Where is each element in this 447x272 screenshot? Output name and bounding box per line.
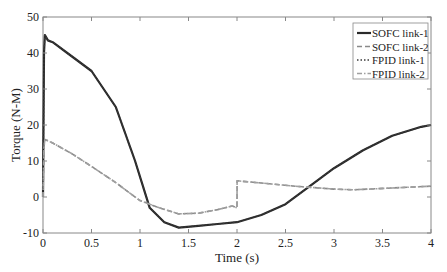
y-tick-label: 20: [27, 118, 39, 132]
x-tick-label: 3.5: [375, 236, 390, 250]
legend-label: FPID link-2: [372, 68, 425, 80]
legend-label: SOFC link-1: [372, 27, 429, 39]
x-tick-label: 0.5: [84, 236, 99, 250]
y-tick-label: 40: [27, 46, 39, 60]
y-axis-label: Torque (N-M): [8, 88, 23, 162]
y-tick-label: 50: [27, 10, 39, 24]
y-tick-label: 0: [33, 190, 39, 204]
legend: SOFC link-1SOFC link-2FPID link-1FPID li…: [353, 23, 429, 80]
x-tick-label: 1.5: [181, 236, 196, 250]
x-tick-label: 2: [234, 236, 240, 250]
y-tick-label: 30: [27, 82, 39, 96]
y-tick-label: 10: [27, 154, 39, 168]
x-tick-label: 4: [428, 236, 434, 250]
x-tick-label: 0: [40, 236, 46, 250]
legend-label: FPID link-1: [372, 54, 425, 66]
x-tick-label: 2.5: [278, 236, 293, 250]
y-tick-label: -10: [23, 226, 39, 240]
x-tick-label: 1: [137, 236, 143, 250]
legend-label: SOFC link-2: [372, 41, 429, 53]
x-axis-label: Time (s): [215, 250, 259, 265]
torque-chart: 00.511.522.533.54 -1001020304050 Time (s…: [0, 0, 447, 272]
x-tick-label: 3: [331, 236, 337, 250]
